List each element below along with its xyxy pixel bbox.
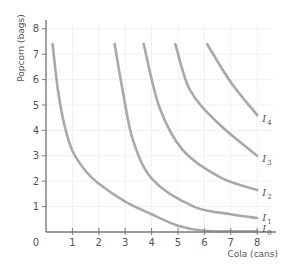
curve-i1 xyxy=(115,44,258,218)
y-tick-label: 4 xyxy=(33,125,39,136)
grid xyxy=(46,24,273,232)
x-axis-label: Cola (cans) xyxy=(227,249,278,259)
x-tick-label: 2 xyxy=(96,237,102,248)
x-tick-label: 8 xyxy=(254,237,260,248)
curve-label-i3: I3 xyxy=(261,153,271,167)
x-tick-label: 3 xyxy=(122,237,128,248)
curve-label-i2: I2 xyxy=(261,187,271,201)
x-tick-label: 7 xyxy=(228,237,234,248)
curve-label-i4: I4 xyxy=(261,113,272,127)
x-tick-label: 1 xyxy=(69,237,75,248)
curve-i0 xyxy=(53,44,258,231)
curve-i2 xyxy=(144,44,258,190)
y-tick-label: 3 xyxy=(33,150,39,161)
y-tick-label: 2 xyxy=(33,176,39,187)
indifference-curve-chart: 01234567812345678 I0I1I2I3I4 Cola (cans)… xyxy=(0,0,292,267)
y-tick-label: 8 xyxy=(33,23,39,34)
x-tick-label: 4 xyxy=(148,237,154,248)
x-tick-label: 5 xyxy=(175,237,181,248)
curve-labels: I0I1I2I3I4 xyxy=(261,113,272,237)
axes xyxy=(46,20,276,232)
y-tick-label: 6 xyxy=(33,74,39,85)
y-tick-label: 1 xyxy=(33,201,39,212)
y-axis-label: Popcorn (bags) xyxy=(16,14,26,82)
curves xyxy=(53,44,258,231)
x-tick-label: 6 xyxy=(201,237,207,248)
x-tick-label: 0 xyxy=(33,237,39,248)
y-tick-label: 5 xyxy=(33,100,39,111)
y-tick-label: 7 xyxy=(33,49,39,60)
